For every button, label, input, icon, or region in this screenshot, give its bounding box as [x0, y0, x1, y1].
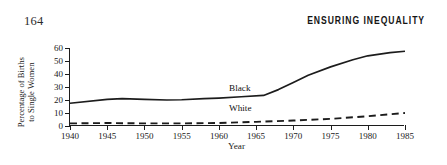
x-axis-tick-label: 1945: [98, 132, 116, 141]
x-axis-tick-label: 1980: [359, 132, 377, 141]
x-axis-tick: [144, 125, 145, 130]
x-axis-tick: [219, 125, 220, 130]
page-number: 164: [24, 14, 44, 29]
y-axis-tick: [65, 87, 70, 88]
x-axis-tick: [405, 125, 406, 130]
x-axis-tick-label: 1985: [396, 132, 414, 141]
x-axis-tick: [107, 125, 108, 130]
x-axis-tick-label: 1960: [210, 132, 228, 141]
y-axis-tick-label: 20: [54, 96, 63, 105]
y-axis-tick: [65, 100, 70, 101]
y-axis-tick-label: 30: [54, 83, 63, 92]
series-line-black: [70, 51, 405, 103]
x-axis-tick: [256, 125, 257, 130]
y-axis-tick-label: 10: [54, 109, 63, 118]
y-axis-tick-label: 0: [59, 122, 64, 131]
x-axis-tick-label: 1965: [247, 132, 265, 141]
y-axis-label-line1: Percentage of Births: [16, 37, 26, 147]
x-axis-tick-label: 1970: [284, 132, 302, 141]
y-axis-tick-label: 40: [54, 70, 63, 79]
y-axis-tick-label: 60: [54, 44, 63, 53]
series-line-white: [70, 113, 405, 123]
book-page: 164 ENSURING INEQUALITY Percentage of Bi…: [0, 0, 447, 165]
x-axis-tick: [70, 125, 71, 130]
figure: Percentage of Births to Single Women 605…: [0, 36, 447, 165]
x-axis-tick: [182, 125, 183, 130]
x-axis-tick: [368, 125, 369, 130]
x-axis-label: Year: [69, 141, 404, 151]
series-annotation-black: Black: [229, 84, 250, 93]
x-axis-tick-label: 1975: [322, 132, 340, 141]
y-axis-tick: [65, 74, 70, 75]
y-axis-label-line2: to Single Women: [26, 37, 36, 147]
x-axis-tick: [293, 125, 294, 130]
x-axis-tick-label: 1940: [61, 132, 79, 141]
y-axis-tick-label: 50: [54, 57, 63, 66]
y-axis-tick: [65, 48, 70, 49]
x-axis-tick-label: 1955: [173, 132, 191, 141]
y-axis-label: Percentage of Births to Single Women: [16, 37, 36, 147]
x-axis-tick: [331, 125, 332, 130]
y-axis-tick: [65, 61, 70, 62]
x-axis-tick-label: 1950: [135, 132, 153, 141]
y-axis-tick: [65, 113, 70, 114]
running-head: ENSURING INEQUALITY: [307, 15, 425, 26]
series-annotation-white: White: [229, 104, 251, 113]
